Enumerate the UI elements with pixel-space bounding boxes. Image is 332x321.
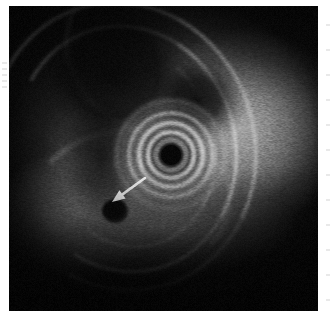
depth-tick-left-1 bbox=[2, 68, 7, 70]
scan-viewport: Endoscopic ultrasound (EUS) radial scan … bbox=[0, 0, 332, 321]
depth-tick-right-7 bbox=[326, 199, 330, 201]
depth-tick-right-1 bbox=[326, 49, 330, 51]
depth-tick-right-3 bbox=[326, 99, 330, 101]
film-grain-texture bbox=[9, 6, 318, 311]
depth-tick-right-8 bbox=[326, 224, 330, 226]
depth-tick-right-10 bbox=[326, 274, 330, 276]
depth-tick-right-4 bbox=[326, 124, 330, 126]
depth-tick-right-9 bbox=[326, 249, 330, 251]
depth-tick-right-11 bbox=[326, 299, 330, 301]
depth-scale-right bbox=[324, 0, 332, 321]
depth-tick-right-2 bbox=[326, 74, 330, 76]
depth-tick-left-2 bbox=[2, 74, 7, 76]
ultrasound-image-frame bbox=[9, 6, 318, 311]
depth-tick-right-0 bbox=[326, 24, 330, 26]
depth-tick-right-5 bbox=[326, 149, 330, 151]
depth-tick-left-0 bbox=[2, 62, 7, 64]
depth-scale-left bbox=[0, 0, 8, 321]
depth-tick-left-4 bbox=[2, 86, 7, 88]
depth-tick-right-6 bbox=[326, 174, 330, 176]
depth-tick-left-3 bbox=[2, 80, 7, 82]
